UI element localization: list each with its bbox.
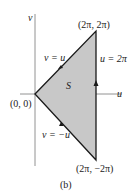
bottom-vertex-label: (2π, −2π) [76,164,113,174]
region-diagram [0,0,136,194]
top-vertex-label: (2π, 2π) [78,20,110,30]
origin-label: (0, 0) [10,99,32,109]
region-s [35,31,96,160]
lower-edge-label: v = −u [42,130,70,140]
v-axis-label: v [28,13,32,23]
upper-edge-label: v = u [44,53,65,63]
figure-caption: (b) [60,180,72,190]
region-label: S [66,81,71,91]
right-edge-label: u = 2π [100,54,127,64]
u-axis-label: u [117,89,122,99]
